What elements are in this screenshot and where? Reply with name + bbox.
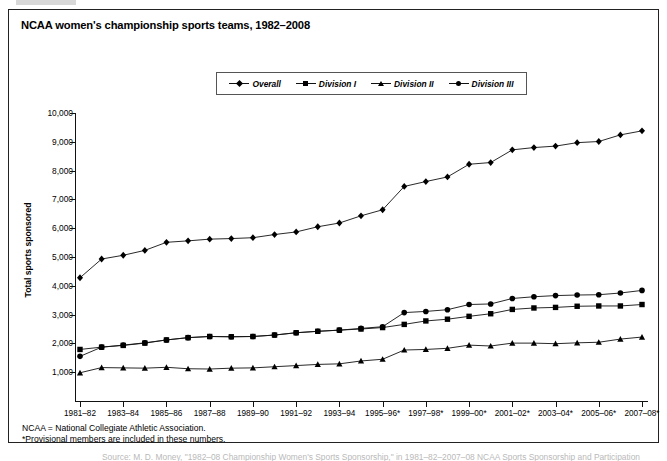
data-point-marker — [596, 292, 602, 298]
data-point-marker — [337, 327, 343, 333]
footnotes: NCAA = National Collegiate Athletic Asso… — [22, 423, 226, 446]
x-axis-tick-label: 1987–88 — [194, 409, 226, 418]
x-axis-tick-mark — [210, 402, 211, 407]
data-point-marker — [510, 296, 516, 302]
data-point-marker — [639, 288, 645, 294]
data-point-marker — [574, 139, 580, 146]
y-axis-tick-label: 10,000 — [27, 108, 73, 118]
y-axis-tick-label: 8,000 — [27, 166, 73, 176]
data-point-marker — [574, 304, 579, 309]
data-point-marker — [553, 143, 559, 150]
data-point-marker — [596, 138, 602, 145]
y-axis-tick-label: 2,000 — [27, 338, 73, 348]
x-axis-tick-mark — [166, 402, 167, 407]
data-point-marker — [272, 332, 278, 338]
data-point-marker — [445, 317, 450, 322]
data-point-marker — [553, 293, 559, 299]
data-point-marker — [315, 223, 321, 230]
y-axis-tick-mark — [70, 171, 75, 172]
data-point-marker — [510, 307, 515, 312]
data-point-marker — [402, 322, 407, 327]
data-point-marker — [207, 334, 213, 340]
y-axis-tick-mark — [70, 257, 75, 258]
footnote-asterisk: *Provisional members are included in the… — [22, 434, 226, 445]
y-axis-tick-label: 1,000 — [27, 367, 73, 377]
y-axis-tick-mark — [70, 199, 75, 200]
series-lines — [75, 113, 647, 401]
data-point-marker — [272, 231, 278, 238]
data-point-marker — [250, 234, 256, 241]
data-point-marker — [164, 337, 170, 343]
data-point-marker — [401, 310, 407, 316]
chart-plot-area: Total sports sponsored 1,0002,0003,0004,… — [9, 10, 660, 444]
data-point-marker — [185, 335, 191, 341]
x-axis-tick-mark — [426, 402, 427, 407]
data-point-marker — [423, 178, 429, 185]
data-point-marker — [185, 237, 191, 244]
data-point-marker — [596, 303, 601, 308]
data-point-marker — [207, 236, 213, 243]
data-point-marker — [358, 326, 364, 332]
data-point-marker — [77, 347, 82, 352]
data-point-marker — [574, 292, 580, 298]
x-axis-tick-label: 2003–04* — [538, 409, 573, 418]
data-point-marker — [466, 161, 472, 168]
data-point-marker — [99, 344, 105, 350]
data-point-marker — [358, 212, 364, 219]
data-point-marker — [142, 340, 148, 346]
source-caption: Source: M. D. Money, "1982–08 Championsh… — [102, 452, 662, 461]
y-axis-tick-label: 4,000 — [27, 281, 73, 291]
data-point-marker — [553, 305, 558, 310]
x-axis-tick-mark — [80, 402, 81, 407]
data-point-marker — [639, 127, 645, 134]
x-axis-tick-label: 1991–92 — [280, 409, 312, 418]
x-axis-tick-label: 1989–90 — [237, 409, 269, 418]
data-point-marker — [315, 329, 321, 335]
figure-container: NCAA women's championship sports teams, … — [8, 9, 659, 443]
data-point-marker — [250, 334, 256, 340]
x-axis-tick-label: 2007–08* — [624, 409, 659, 418]
data-point-marker — [380, 324, 386, 330]
x-axis-tick-label: 1983–84 — [107, 409, 139, 418]
data-point-marker — [293, 330, 299, 336]
x-axis-tick-mark — [383, 402, 384, 407]
x-axis-tick-mark — [556, 402, 557, 407]
x-axis-tick-label: 2005–06* — [581, 409, 616, 418]
y-axis-tick-label: 5,000 — [27, 252, 73, 262]
x-axis-tick-label: 1995–96* — [365, 409, 400, 418]
data-point-marker — [466, 302, 472, 308]
series-division-iii — [77, 288, 645, 360]
x-axis-tick-label: 1981–82 — [64, 409, 96, 418]
y-axis-tick-label: 6,000 — [27, 223, 73, 233]
data-point-marker — [120, 342, 126, 348]
x-axis-tick-label: 1985–86 — [151, 409, 183, 418]
x-axis-tick-mark — [296, 402, 297, 407]
data-point-marker — [120, 252, 126, 259]
x-axis-tick-mark — [339, 402, 340, 407]
data-point-marker — [639, 302, 644, 307]
y-axis-tick-labels: 1,0002,0003,0004,0005,0006,0007,0008,000… — [27, 110, 73, 400]
page-edge-artifact — [0, 0, 667, 7]
data-point-marker — [531, 144, 537, 151]
data-point-marker — [423, 318, 428, 323]
data-point-marker — [423, 309, 429, 315]
data-point-marker — [509, 146, 515, 153]
data-point-marker — [142, 247, 148, 254]
x-axis-tick-mark — [599, 402, 600, 407]
data-point-marker — [466, 314, 471, 319]
x-axis-tick-label: 1999–00* — [452, 409, 487, 418]
y-axis-tick-label: 9,000 — [27, 137, 73, 147]
data-point-marker — [445, 307, 451, 313]
data-point-marker — [488, 311, 493, 316]
data-point-marker — [293, 229, 299, 236]
data-point-marker — [488, 301, 494, 307]
footnote-abbreviation: NCAA = National Collegiate Athletic Asso… — [22, 423, 226, 434]
x-axis-tick-mark — [253, 402, 254, 407]
data-point-marker — [618, 303, 623, 308]
x-axis-line — [75, 401, 648, 402]
series-overall — [77, 127, 645, 281]
data-point-marker — [336, 220, 342, 227]
data-point-marker — [488, 159, 494, 166]
y-axis-tick-label: 3,000 — [27, 310, 73, 320]
y-axis-tick-mark — [70, 343, 75, 344]
